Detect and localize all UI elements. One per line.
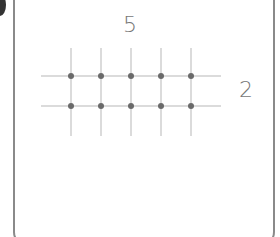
array-dot bbox=[188, 103, 194, 109]
array-dot bbox=[68, 103, 74, 109]
array-dot bbox=[128, 73, 134, 79]
array-grid bbox=[0, 0, 280, 237]
array-dot bbox=[98, 73, 104, 79]
array-dot bbox=[68, 73, 74, 79]
array-dot bbox=[98, 103, 104, 109]
array-dot bbox=[158, 103, 164, 109]
array-dot bbox=[128, 103, 134, 109]
array-dot bbox=[158, 73, 164, 79]
array-dot bbox=[188, 73, 194, 79]
